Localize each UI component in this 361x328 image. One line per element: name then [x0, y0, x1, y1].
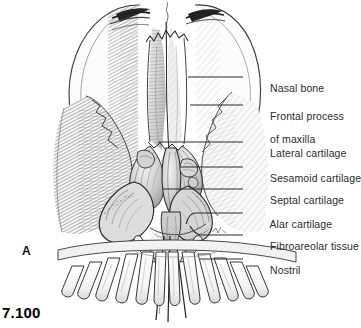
- figure-number: 7.100: [2, 304, 41, 321]
- label-fibroareolar-tissue-text: Fibroareolar tissue: [270, 240, 359, 252]
- label-nostril: Nostril: [258, 253, 301, 288]
- label-alar-cartilage-text: Alar cartilage: [270, 218, 333, 230]
- label-frontal-process-line1: Frontal process: [270, 110, 344, 122]
- label-septal-cartilage-text: Septal cartilage: [270, 194, 344, 206]
- label-sesamoid-cartilage-text: Sesamoid cartilage: [270, 172, 361, 184]
- label-nasal-bone-text: Nasal bone: [270, 82, 324, 94]
- panel-letter: A: [22, 244, 31, 258]
- fibroareolar-tissue: [150, 224, 212, 242]
- label-nostril-text: Nostril: [270, 264, 300, 276]
- label-lateral-cartilage-text: Lateral cartilage: [270, 147, 346, 159]
